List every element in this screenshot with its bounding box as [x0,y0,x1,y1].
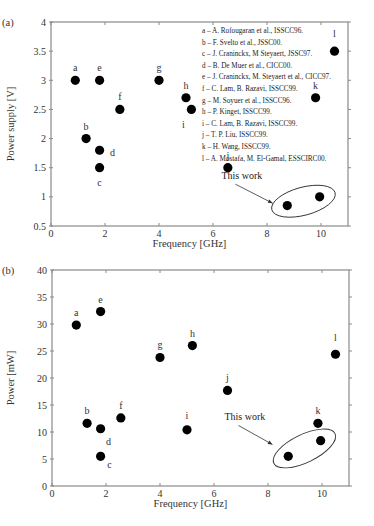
data-point-a [72,320,81,329]
chart-b-power-vs-frequency: 02468100510152025303540(b)Frequency [GHz… [2,265,352,510]
legend-text: C. Lam, B. Razavi, ISSCC99. [211,120,297,128]
x-tick-label: 10 [317,488,327,499]
point-label: g [158,339,163,350]
legend-item: l – A. Mostafa, M. El-Gamal, ESSCIRC00. [202,155,327,163]
panel-label: (b) [2,265,15,277]
legend-text: F. Svelto et al., JSSC00. [213,39,283,47]
data-point-d [95,146,104,155]
data-point-g [154,76,163,85]
y-tick-label: 30 [37,319,47,330]
point-label: k [315,405,320,416]
data-point-i [182,425,191,434]
chart-a-supply-vs-frequency: 02468100.511.522.533.54(a)Frequency [GHz… [2,17,351,250]
legend-item: h – P. Kinget, ISSCC99. [202,108,272,116]
legend-dash: – [206,62,213,70]
x-tick-label: 0 [49,228,54,239]
y-tick-label: 1.5 [34,162,47,173]
legend-text: C. Lam, B. Razavi, ISSCC99. [212,85,298,93]
data-point-l [330,47,339,56]
y-tick-label: 4 [41,17,46,28]
point-label: e [97,62,102,73]
data-point-k [311,93,320,102]
legend-dash: – [205,50,212,58]
legend: a – A. Rofougaran et al., ISSCC96.b – F.… [201,27,331,163]
legend-item: b – F. Svelto et al., JSSC00. [202,39,282,47]
data-point-h [188,341,197,350]
point-label: g [157,62,162,73]
data-point-f [115,105,124,114]
x-axis-title: Frequency [GHz] [153,238,227,249]
point-label: k [313,80,318,91]
legend-dash: – [206,108,213,116]
point-label: c [97,177,102,188]
y-tick-label: 15 [37,400,47,411]
point-label: e [98,294,103,305]
point-label: i [182,119,185,130]
legend-text: A. Mostafa, M. El-Gamal, ESSCIRC00. [211,155,327,163]
annotation-arrow [238,425,272,444]
y-tick-label: 40 [37,265,47,276]
x-tick-label: 8 [266,488,271,499]
data-point-f [116,413,125,422]
legend-text: B. De Muer et al., CICC00. [213,62,292,70]
point-label: c [107,459,112,470]
point-label: a [73,62,78,73]
this-work-point [316,436,325,445]
legend-text: J. Craninckx, M. Steyaert et al., CICC97… [212,73,331,81]
this-work-ellipse [268,421,341,476]
data-point-i [187,105,196,114]
legend-item: a – A. Rofougaran et al., ISSCC96. [202,27,303,35]
data-point-h [181,93,190,102]
point-label: a [74,307,79,318]
y-tick-label: 0.5 [34,221,47,232]
legend-dash: – [205,27,212,35]
this-work-point [284,452,293,461]
x-tick-label: 2 [104,488,109,499]
this-work-annotation: This work [221,170,262,181]
panel-label: (a) [2,17,14,29]
y-tick-label: 20 [37,373,47,384]
legend-item: e – J. Craninckx, M. Steyaert et al., CI… [202,73,331,81]
this-work-ellipse [268,179,339,223]
data-point-c [95,163,104,172]
legend-text: M. Soyuer et al., ISSCC96. [213,97,292,105]
data-point-l [331,350,340,359]
point-label: h [190,328,195,339]
point-label: b [85,405,90,416]
legend-item: c – J. Craninckx, M Steyaert, JSSC97. [202,50,312,58]
point-label: l [333,28,336,39]
legend-dash: – [205,73,212,81]
point-label: i [186,410,189,421]
x-axis-title: Frequency [GHz] [154,498,228,509]
point-label: f [119,400,123,411]
this-work-annotation: This work [224,411,265,422]
point-label: l [334,332,337,343]
legend-item: k – H. Wang, ISSCC99. [202,143,271,151]
y-tick-label: 25 [37,346,47,357]
y-tick-label: 3 [41,75,46,86]
point-label: d [110,147,115,158]
plot-frame [52,270,349,486]
legend-text: J. Craninckx, M Steyaert, JSSC97. [212,50,312,58]
point-label: h [184,80,189,91]
data-point-b [82,134,91,143]
data-point-e [96,307,105,316]
point-label: d [106,436,111,447]
legend-text: P. Kinget, ISSCC99. [213,108,272,116]
legend-dash: – [204,120,211,128]
legend-dash: – [206,97,213,105]
point-label: b [84,121,89,132]
y-tick-label: 1 [41,191,46,202]
figure: 02468100.511.522.533.54(a)Frequency [GHz… [0,0,374,526]
legend-dash: – [206,39,213,47]
y-tick-label: 5 [42,454,47,465]
y-tick-label: 35 [37,292,47,303]
data-point-d [96,424,105,433]
x-tick-label: 10 [316,228,326,239]
annotation-arrow [235,184,272,203]
point-label: j [225,372,229,383]
data-point-b [83,419,92,428]
data-point-c [96,452,105,461]
legend-item: f – C. Lam, B. Razavi, ISSCC99. [202,85,298,93]
x-tick-label: 0 [50,488,55,499]
